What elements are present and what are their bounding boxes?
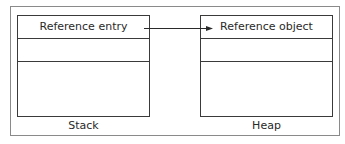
reference-arrow-icon: [0, 0, 345, 144]
